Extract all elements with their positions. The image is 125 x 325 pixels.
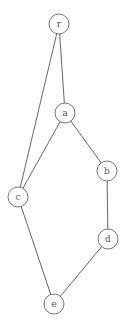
node-c-label: c <box>15 192 20 202</box>
edge-d-e <box>54 239 108 304</box>
node-r: r <box>49 14 69 34</box>
node-a: a <box>55 103 75 123</box>
edge-r-c <box>18 24 59 197</box>
node-d: d <box>98 229 118 249</box>
node-e: e <box>44 294 64 314</box>
node-a-label: a <box>62 108 68 118</box>
edge-a-c <box>18 113 65 197</box>
edges-layer <box>18 24 108 304</box>
node-c: c <box>8 187 28 207</box>
edge-c-e <box>18 197 54 304</box>
graph-diagram: r a b c d e <box>0 0 125 325</box>
nodes-layer: r a b c d e <box>8 14 118 314</box>
node-b: b <box>97 161 117 181</box>
node-e-label: e <box>51 299 56 309</box>
node-b-label: b <box>104 166 110 176</box>
node-r-label: r <box>57 19 62 29</box>
edge-a-b <box>65 113 107 171</box>
node-d-label: d <box>105 234 111 244</box>
edge-r-a <box>59 24 65 113</box>
